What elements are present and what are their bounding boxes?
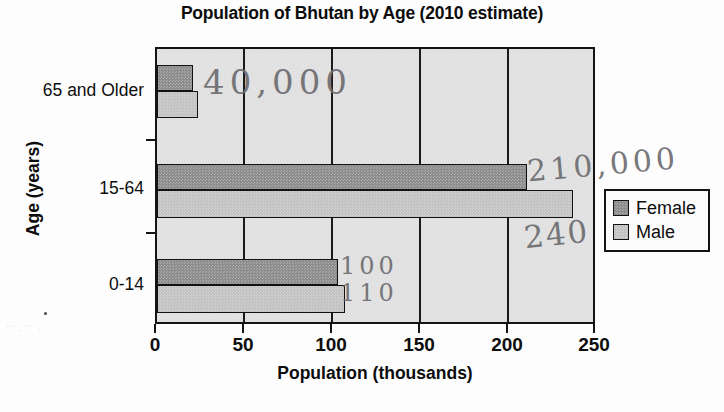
xtick-mark-200 — [506, 324, 508, 333]
legend-entry-female: Female — [613, 196, 702, 220]
bar-male-0-14 — [157, 285, 345, 313]
bar-female-15-64 — [157, 164, 527, 190]
bar-fill-texture — [158, 286, 344, 312]
swatch-texture — [614, 225, 628, 239]
scan-stray-dot — [44, 312, 47, 315]
bar-female-0-14 — [157, 259, 338, 285]
xtick-label-100: 100 — [301, 334, 361, 356]
xtick-mark-0 — [154, 324, 156, 333]
handwritten-annotation-240: 240 — [522, 213, 591, 256]
bar-fill-texture — [158, 191, 572, 217]
ytick-label-65-and-older: 65 and Older — [4, 80, 144, 101]
worksheet-page: Population of Bhutan by Age (2010 estima… — [0, 0, 724, 412]
bar-fill-texture — [158, 66, 192, 90]
legend-label-female: Female — [636, 199, 696, 217]
legend: Female Male — [604, 189, 710, 252]
bar-fill-texture — [158, 165, 526, 189]
xtick-label-150: 150 — [389, 334, 449, 356]
legend-label-male: Male — [636, 223, 675, 241]
xtick-mark-150 — [418, 324, 420, 333]
xtick-mark-100 — [330, 324, 332, 333]
handwritten-annotation-40000: 40,000 — [203, 62, 352, 102]
x-axis-title: Population (thousands) — [155, 363, 595, 384]
handwritten-annotation-100: 100 — [340, 252, 398, 280]
xtick-label-200: 200 — [477, 334, 537, 356]
bar-female-65-and-older — [157, 65, 193, 91]
y-axis-title: Age (years) — [23, 109, 44, 269]
ytick-label-0-14: 0-14 — [4, 274, 144, 295]
bar-fill-texture — [158, 260, 337, 284]
legend-swatch-female-icon — [613, 200, 629, 216]
swatch-texture — [614, 201, 628, 215]
bar-fill-texture — [158, 92, 197, 117]
legend-entry-male: Male — [613, 220, 702, 244]
bar-male-65-and-older — [157, 91, 198, 118]
legend-swatch-male-icon — [613, 224, 629, 240]
ytick-mark-lower — [146, 232, 156, 234]
xtick-label-50: 50 — [213, 334, 273, 356]
xtick-mark-250 — [593, 324, 595, 333]
ytick-mark-upper — [146, 139, 156, 141]
xtick-mark-50 — [242, 324, 244, 333]
xtick-label-250: 250 — [564, 334, 624, 356]
handwritten-annotation-110: 110 — [340, 279, 398, 307]
bar-male-15-64 — [157, 190, 573, 218]
